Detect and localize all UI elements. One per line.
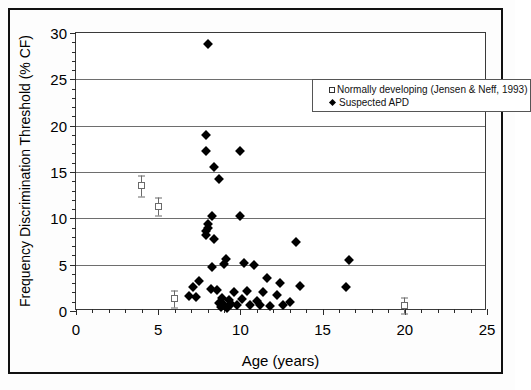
data-point-normally-developing (137, 181, 146, 190)
data-point-normally-developing (154, 202, 163, 211)
open-square-marker (155, 203, 162, 210)
open-square-marker (171, 295, 178, 302)
x-tick-13 (290, 309, 291, 313)
x-tick-22 (438, 309, 439, 313)
error-bar-cap-upper (401, 297, 408, 298)
x-tick-1 (92, 309, 93, 313)
data-point-suspected-apd (201, 146, 211, 156)
filled-diamond-icon (329, 99, 336, 106)
y-tick-10 (70, 218, 76, 219)
x-tick-24 (471, 309, 472, 313)
gridline-y-20 (76, 126, 485, 127)
x-tick-10 (240, 309, 241, 315)
y-tick-3 (72, 283, 76, 284)
chart-legend: Normally developing (Jensen & Neff, 1993… (312, 79, 531, 112)
data-point-normally-developing (170, 294, 179, 303)
x-axis-title-text: Age (years) (242, 352, 320, 369)
y-tick-19 (72, 135, 76, 136)
data-point-suspected-apd (344, 255, 354, 265)
gridline-y-5 (76, 265, 485, 266)
x-tick-2 (109, 309, 110, 313)
x-tick-label-5: 5 (154, 321, 162, 338)
data-point-suspected-apd (272, 290, 282, 300)
y-tick-27 (72, 61, 76, 62)
y-tick-17 (72, 153, 76, 154)
x-tick-8 (208, 309, 209, 313)
y-tick-label-0: 0 (59, 303, 67, 320)
data-point-suspected-apd (203, 39, 213, 49)
x-tick-label-0: 0 (72, 321, 80, 338)
open-square-marker (138, 182, 145, 189)
y-tick-18 (72, 144, 76, 145)
gridline-y-10 (76, 218, 485, 219)
x-tick-6 (175, 309, 176, 313)
y-tick-12 (72, 200, 76, 201)
error-bar-cap-lower (171, 307, 178, 308)
y-tick-20 (70, 126, 76, 127)
y-tick-15 (70, 172, 76, 173)
x-tick-5 (158, 309, 159, 315)
y-tick-2 (72, 292, 76, 293)
x-tick-18 (372, 309, 373, 313)
x-tick-21 (421, 309, 422, 313)
y-tick-8 (72, 237, 76, 238)
data-point-suspected-apd (275, 278, 285, 288)
data-point-suspected-apd (295, 281, 305, 291)
y-tick-4 (72, 274, 76, 275)
data-point-suspected-apd (214, 174, 224, 184)
data-point-suspected-apd (235, 146, 245, 156)
y-axis-title-text: Frequency Discrimination Threshold (% CF… (17, 35, 33, 307)
legend-entry-suspected-apd: Suspected APD (329, 96, 530, 109)
x-tick-25 (487, 309, 488, 315)
y-tick-label-15: 15 (50, 164, 67, 181)
y-tick-label-5: 5 (59, 256, 67, 273)
y-tick-label-20: 20 (50, 117, 67, 134)
x-tick-19 (388, 309, 389, 313)
x-tick-0 (76, 309, 77, 315)
y-tick-11 (72, 209, 76, 210)
data-point-suspected-apd (209, 162, 219, 172)
y-axis-title: Frequency Discrimination Threshold (% CF… (14, 32, 36, 310)
x-tick-23 (454, 309, 455, 313)
error-bar-cap-lower (155, 216, 162, 217)
legend-entry-normally-developing: Normally developing (Jensen & Neff, 1993… (329, 83, 530, 96)
x-tick-11 (257, 309, 258, 313)
y-tick-14 (72, 181, 76, 182)
y-tick-16 (72, 163, 76, 164)
x-tick-label-25: 25 (479, 321, 496, 338)
y-tick-25 (70, 79, 76, 80)
y-tick-22 (72, 107, 76, 108)
data-point-suspected-apd (249, 260, 259, 270)
x-tick-label-20: 20 (396, 321, 413, 338)
y-tick-28 (72, 52, 76, 53)
legend-label-1: Suspected APD (339, 96, 409, 109)
x-tick-4 (142, 309, 143, 313)
x-tick-16 (339, 309, 340, 313)
x-tick-label-15: 15 (314, 321, 331, 338)
x-tick-14 (306, 309, 307, 313)
y-tick-29 (72, 42, 76, 43)
x-tick-15 (323, 309, 324, 315)
error-bar-cap-upper (171, 291, 178, 292)
data-point-suspected-apd (239, 258, 249, 268)
x-tick-7 (191, 309, 192, 313)
legend-label-0: Normally developing (Jensen & Neff, 1993… (337, 83, 527, 96)
y-tick-6 (72, 255, 76, 256)
y-tick-21 (72, 116, 76, 117)
data-point-suspected-apd (341, 282, 351, 292)
open-square-icon (329, 87, 335, 93)
data-point-suspected-apd (191, 292, 201, 302)
data-point-suspected-apd (242, 286, 252, 296)
y-tick-26 (72, 70, 76, 71)
plot-area: 051015202530 0510152025 Normally develop… (75, 32, 486, 310)
x-axis-title: Age (years) (75, 352, 486, 369)
y-tick-24 (72, 89, 76, 90)
x-tick-3 (125, 309, 126, 313)
error-bar-cap-upper (138, 176, 145, 177)
y-tick-label-30: 30 (50, 25, 67, 42)
data-point-suspected-apd (262, 273, 272, 283)
y-tick-label-10: 10 (50, 210, 67, 227)
x-tick-label-10: 10 (232, 321, 249, 338)
error-bar-cap-lower (401, 314, 408, 315)
